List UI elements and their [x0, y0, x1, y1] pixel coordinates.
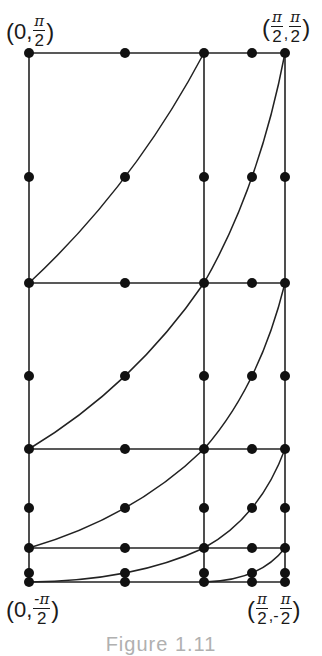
grid-point — [24, 568, 34, 578]
mapping-curve — [29, 449, 204, 548]
denominator: 2 — [281, 609, 290, 627]
mapping-curve — [204, 53, 285, 283]
grid-point — [24, 371, 34, 381]
grid-point — [120, 172, 130, 182]
grid-point — [24, 577, 34, 587]
numerator: -π — [33, 592, 50, 609]
numerator: π — [289, 10, 301, 27]
numerator: π — [256, 592, 268, 609]
fraction-pi-over-2: π 2 — [256, 592, 268, 627]
grid-point — [280, 568, 290, 578]
paren-open: ( — [247, 598, 255, 622]
fraction-pi-over-2: π 2 — [271, 10, 283, 45]
mapping-curve — [204, 283, 285, 449]
grid-point — [120, 503, 130, 513]
grid-point — [120, 568, 130, 578]
label-top-left: ( 0, π 2 ) — [6, 14, 54, 49]
grid-point — [280, 543, 290, 553]
label-bottom-left: ( 0, -π 2 ) — [6, 592, 59, 627]
denominator: 2 — [37, 609, 46, 627]
mapping-curves — [29, 53, 285, 582]
mapping-curve — [29, 548, 204, 582]
grid-point — [24, 503, 34, 513]
fraction-pi-over-2: π 2 — [33, 14, 45, 49]
grid-points — [24, 48, 290, 587]
grid-point — [120, 577, 130, 587]
grid-point — [120, 48, 130, 58]
fraction-neg-pi-over-2: -π 2 — [33, 592, 50, 627]
label-bottom-right: ( π 2 ,- π 2 ) — [247, 592, 301, 627]
grid-point — [247, 371, 257, 381]
paren-open: ( — [6, 20, 14, 44]
grid-point — [199, 371, 209, 381]
grid-point — [247, 503, 257, 513]
grid-point — [120, 543, 130, 553]
grid-point — [280, 48, 290, 58]
grid-point — [247, 577, 257, 587]
fraction-pi-over-2: π 2 — [280, 592, 292, 627]
grid-point — [199, 172, 209, 182]
grid-point — [280, 371, 290, 381]
mapping-curve — [204, 548, 285, 582]
grid-point — [199, 444, 209, 454]
grid-point — [280, 577, 290, 587]
grid-point — [247, 543, 257, 553]
grid-point — [199, 577, 209, 587]
paren-open: ( — [6, 598, 14, 622]
mapping-curve — [29, 53, 204, 283]
grid-point — [24, 172, 34, 182]
grid-point — [247, 568, 257, 578]
separator: , — [284, 26, 288, 42]
separator: ,- — [269, 608, 279, 624]
paren-close: ) — [51, 598, 59, 622]
grid-point — [199, 503, 209, 513]
label-top-right: ( π 2 , π 2 ) — [262, 10, 310, 45]
grid-point — [247, 172, 257, 182]
denominator: 2 — [35, 31, 44, 49]
mapping-curve — [29, 283, 204, 449]
grid-point — [24, 444, 34, 454]
grid-point — [120, 371, 130, 381]
grid-point — [280, 503, 290, 513]
grid-point — [247, 48, 257, 58]
fraction-pi-over-2: π 2 — [289, 10, 301, 45]
mapping-curve — [204, 449, 285, 548]
paren-open: ( — [262, 16, 270, 40]
grid-point — [24, 48, 34, 58]
grid-point — [199, 48, 209, 58]
grid-point — [24, 543, 34, 553]
numerator: π — [271, 10, 283, 27]
grid-point — [199, 568, 209, 578]
grid-point — [120, 278, 130, 288]
numerator: π — [33, 14, 45, 31]
coord-x: 0, — [14, 599, 32, 621]
grid-point — [199, 543, 209, 553]
numerator: π — [280, 592, 292, 609]
grid-point — [247, 444, 257, 454]
grid-point — [280, 172, 290, 182]
denominator: 2 — [272, 27, 281, 45]
grid-point — [247, 278, 257, 288]
paren-close: ) — [302, 16, 310, 40]
grid-point — [24, 278, 34, 288]
figure-caption: Figure 1.11 — [0, 633, 322, 656]
grid-point — [120, 444, 130, 454]
paren-close: ) — [46, 20, 54, 44]
grid-point — [280, 278, 290, 288]
denominator: 2 — [291, 27, 300, 45]
paren-close: ) — [293, 598, 301, 622]
grid-point — [280, 444, 290, 454]
denominator: 2 — [257, 609, 266, 627]
grid-point — [199, 278, 209, 288]
coord-x: 0, — [14, 21, 32, 43]
